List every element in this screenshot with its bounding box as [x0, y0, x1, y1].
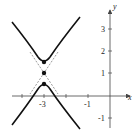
hyperbola-graph: x y -3 -1 3 2 1 -1 — [0, 0, 138, 134]
vertex-lower — [42, 82, 46, 86]
y-tick-label-1: 1 — [101, 69, 105, 78]
center-point — [42, 71, 46, 75]
hyperbola-upper-branch — [12, 17, 80, 61]
y-tick-label-2: 2 — [101, 47, 105, 56]
hyperbola-lower-branch — [12, 85, 80, 130]
y-axis-label: y — [112, 2, 117, 11]
y-tick-label-neg1: -1 — [98, 114, 105, 123]
x-tick-label-neg1: -1 — [84, 100, 91, 109]
x-tick-label-neg3: -3 — [39, 100, 46, 109]
x-axis-label: x — [127, 93, 132, 102]
y-tick-label-3: 3 — [101, 25, 105, 34]
vertex-upper — [42, 60, 46, 64]
